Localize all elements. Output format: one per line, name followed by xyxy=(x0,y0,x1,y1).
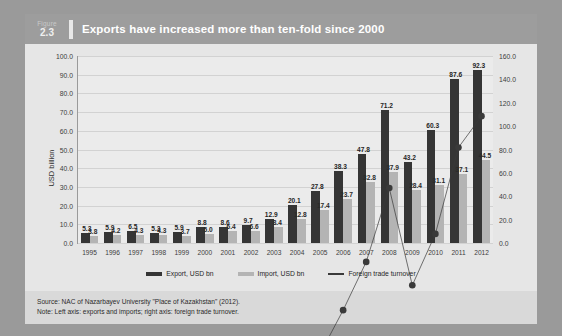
chart-plot-area: USD billion 0.010.020.030.040.050.060.07… xyxy=(25,44,537,291)
y-axis-right-tick-label: 0.0 xyxy=(499,240,508,247)
y-axis-right-tick-label: 80.0 xyxy=(499,146,512,153)
y-axis-left-tick-label: 80.0 xyxy=(60,90,73,97)
y-axis-left-tick-label: 40.0 xyxy=(60,165,73,172)
y-axis-right-tick-label: 120.0 xyxy=(499,99,516,106)
figure-number-box: Figure 2.3 xyxy=(25,14,69,44)
y-axis-title: USD billion xyxy=(47,149,56,186)
legend-item[interactable]: Export, USD bn xyxy=(146,270,213,277)
turnover-line xyxy=(78,56,493,336)
legend-label: Export, USD bn xyxy=(166,270,213,277)
turnover-polyline xyxy=(90,116,482,336)
turnover-point xyxy=(432,231,439,238)
header-divider xyxy=(69,20,73,39)
legend-swatch xyxy=(328,273,344,275)
y-axis-left-tick-label: 10.0 xyxy=(60,221,73,228)
legend-item[interactable]: Foreign trade turnover xyxy=(328,270,415,277)
y-axis-right-tick-label: 160.0 xyxy=(499,53,516,60)
figure-card: Figure 2.3 Exports have increased more t… xyxy=(25,14,537,324)
turnover-point xyxy=(409,282,416,289)
turnover-point xyxy=(340,307,347,314)
chart-grid: 0.010.020.030.040.050.060.070.080.090.01… xyxy=(77,56,493,244)
figure-title: Exports have increased more than ten-fol… xyxy=(82,23,384,35)
y-axis-right-tick-label: 40.0 xyxy=(499,193,512,200)
legend-label: Foreign trade turnover xyxy=(348,270,415,277)
y-axis-left-tick-label: 0.0 xyxy=(64,240,73,247)
legend-label: Import, USD bn xyxy=(258,270,305,277)
y-axis-left-tick-label: 90.0 xyxy=(60,71,73,78)
turnover-point xyxy=(455,144,462,151)
y-axis-left-tick-label: 100.0 xyxy=(56,53,73,60)
y-axis-left-tick-label: 70.0 xyxy=(60,109,73,116)
figure-word: Figure xyxy=(37,20,57,27)
legend-item[interactable]: Import, USD bn xyxy=(238,270,305,277)
chart-legend: Export, USD bnImport, USD bnForeign trad… xyxy=(25,270,537,277)
figure-header: Figure 2.3 Exports have increased more t… xyxy=(25,14,537,44)
y-axis-right-tick-label: 60.0 xyxy=(499,169,512,176)
turnover-point xyxy=(363,259,370,266)
y-axis-right-tick-label: 100.0 xyxy=(499,123,516,130)
turnover-point xyxy=(478,113,485,120)
legend-swatch xyxy=(238,272,254,276)
y-axis-left-tick-label: 60.0 xyxy=(60,127,73,134)
y-axis-right-tick-label: 140.0 xyxy=(499,76,516,83)
y-axis-right-tick-label: 20.0 xyxy=(499,216,512,223)
y-axis-left-tick-label: 50.0 xyxy=(60,146,73,153)
figure-number: 2.3 xyxy=(40,27,54,38)
legend-swatch xyxy=(146,272,162,276)
turnover-point xyxy=(386,185,393,192)
y-axis-left-tick-label: 30.0 xyxy=(60,183,73,190)
y-axis-left-tick-label: 20.0 xyxy=(60,202,73,209)
